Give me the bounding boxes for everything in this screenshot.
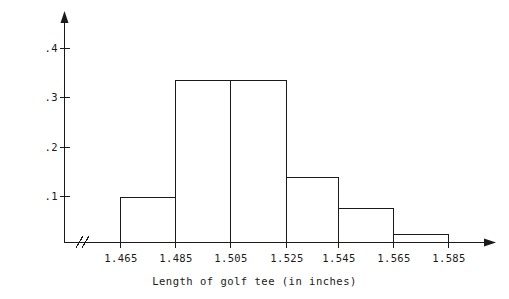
histogram-bar bbox=[394, 235, 449, 243]
x-tick-label: 1.525 bbox=[270, 252, 304, 264]
histogram-bar bbox=[121, 197, 176, 243]
histogram-bar bbox=[231, 81, 287, 243]
x-tick-label: 1.545 bbox=[322, 252, 356, 264]
x-tick-label: 1.465 bbox=[104, 252, 138, 264]
histogram-figure: .4 .3 .2 .1 1.465 1.485 1.505 1.525 1.54… bbox=[0, 0, 509, 299]
y-tick-label: .1 bbox=[42, 190, 58, 202]
x-tick-label: 1.505 bbox=[214, 252, 248, 264]
histogram-bar bbox=[287, 177, 339, 243]
x-axis-title: Length of golf tee (in inches) bbox=[0, 275, 509, 287]
histogram-bar bbox=[339, 209, 394, 243]
histogram-bar bbox=[176, 81, 231, 243]
x-tick-label: 1.485 bbox=[159, 252, 193, 264]
x-tick-label: 1.565 bbox=[377, 252, 411, 264]
y-tick-label: .4 bbox=[42, 42, 58, 54]
x-tick-label: 1.585 bbox=[432, 252, 466, 264]
x-axis-arrow-icon bbox=[484, 239, 496, 247]
y-tick-label: .3 bbox=[42, 91, 58, 103]
y-axis-arrow-icon bbox=[61, 11, 69, 23]
y-tick-label: .2 bbox=[42, 141, 58, 153]
